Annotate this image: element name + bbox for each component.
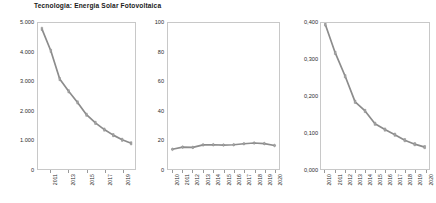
x-tick-label: 2015 [377, 174, 383, 186]
x-tick-label: 2013 [205, 174, 211, 186]
x-tick-mark [395, 170, 396, 173]
plot-frame-2 [167, 22, 280, 170]
x-tick-mark [192, 170, 193, 173]
chart-panel-lcoe: 0,0000,1000,2000,3000,400 20102011201220… [290, 22, 436, 170]
plot-area-3 [321, 23, 429, 169]
x-tick-label: 2020 [277, 174, 283, 186]
y-tick-label: 0,200 [290, 93, 318, 99]
plot-frame-1 [37, 22, 136, 170]
x-tick-label: 2016 [236, 174, 242, 186]
x-tick-mark [415, 170, 416, 173]
y-tick-label: 20 [140, 137, 164, 143]
x-tick-label: 2014 [215, 174, 221, 186]
y-tick-label: 0 [0, 167, 34, 173]
x-tick-mark [355, 170, 356, 173]
x-tick-mark [105, 170, 106, 173]
x-tick-label: 2019 [267, 174, 273, 186]
line-series-1 [38, 23, 135, 169]
y-tick-label: 0,100 [290, 130, 318, 136]
x-tick-mark [275, 170, 276, 173]
x-tick-label: 2019 [125, 174, 131, 186]
x-tick-mark [244, 170, 245, 173]
x-tick-label: 2018 [257, 174, 263, 186]
x-tick-mark [385, 170, 386, 173]
x-tick-mark [224, 170, 225, 173]
y-tick-label: 40 [140, 108, 164, 114]
x-tick-label: 2017 [246, 174, 252, 186]
x-tick-label: 2010 [174, 174, 180, 186]
line-series-2 [168, 23, 279, 169]
x-tick-label: 2019 [417, 174, 423, 186]
x-tick-mark [335, 170, 336, 173]
x-tick-label: 2011 [337, 174, 343, 185]
x-tick-mark [172, 170, 173, 173]
x-tick-label: 2020 [428, 174, 434, 186]
plot-area-2 [168, 23, 279, 169]
chart-panel-capacity-factor: 020406080100 201020112012201320142015201… [140, 22, 290, 170]
x-tick-mark [50, 170, 51, 173]
y-tick-label: 0,000 [290, 167, 318, 173]
y-tick-label: 3.000 [0, 78, 34, 84]
y-tick-label: 5.000 [0, 19, 34, 25]
x-tick-label: 2016 [387, 174, 393, 186]
y-tick-label: 2.000 [0, 108, 34, 114]
y-tick-label: 4.000 [0, 49, 34, 55]
y-tick-label: 1.000 [0, 137, 34, 143]
y-tick-label: 0,300 [290, 56, 318, 62]
plot-frame-3 [320, 22, 430, 170]
x-tick-mark [68, 170, 69, 173]
x-tick-mark [255, 170, 256, 173]
x-tick-mark [182, 170, 183, 173]
figure-canvas: Tecnologia: Energia Solar Fotovoltaica 0… [0, 0, 436, 203]
x-tick-mark [203, 170, 204, 173]
plot-area-1 [38, 23, 135, 169]
x-tick-mark [345, 170, 346, 173]
x-tick-mark [123, 170, 124, 173]
y-tick-label: 100 [140, 19, 164, 25]
x-tick-label: 2018 [407, 174, 413, 186]
x-tick-label: 2017 [107, 174, 113, 186]
line-series-3 [321, 23, 429, 169]
x-tick-mark [234, 170, 235, 173]
x-tick-label: 2014 [367, 174, 373, 186]
x-tick-label: 2011 [184, 174, 190, 185]
x-tick-mark [405, 170, 406, 173]
x-tick-label: 2012 [347, 174, 353, 186]
y-tick-label: 0 [140, 167, 164, 173]
chart-panel-capex: 01.0002.0003.0004.0005.000 2011201320152… [0, 22, 140, 170]
y-tick-label: 0,400 [290, 19, 318, 25]
x-tick-label: 2013 [70, 174, 76, 186]
y-tick-label: 80 [140, 49, 164, 55]
x-tick-label: 2017 [397, 174, 403, 186]
x-tick-mark [213, 170, 214, 173]
x-tick-label: 2015 [226, 174, 232, 186]
x-tick-mark [365, 170, 366, 173]
x-tick-label: 2015 [89, 174, 95, 186]
x-tick-mark [324, 170, 325, 173]
figure-title: Tecnologia: Energia Solar Fotovoltaica [34, 2, 161, 9]
y-tick-label: 60 [140, 78, 164, 84]
x-tick-label: 2011 [52, 174, 58, 185]
x-tick-mark [375, 170, 376, 173]
x-tick-mark [87, 170, 88, 173]
x-tick-label: 2010 [326, 174, 332, 186]
x-tick-mark [265, 170, 266, 173]
x-tick-label: 2013 [357, 174, 363, 186]
x-tick-mark [426, 170, 427, 173]
x-tick-label: 2012 [194, 174, 200, 186]
